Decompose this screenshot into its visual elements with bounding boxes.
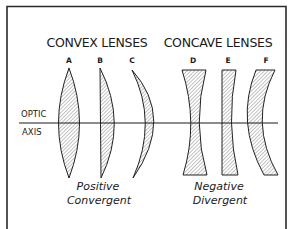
lens-c-convex-meniscus (132, 70, 154, 178)
convex-caption-positive: Positive (77, 180, 120, 193)
lens-label-a: A (66, 56, 72, 65)
lens-label-f: F (263, 56, 268, 65)
concave-lenses-heading: CONCAVE LENSES (164, 35, 273, 50)
concave-caption-divergent: Divergent (193, 194, 248, 207)
lens-label-e: E (225, 56, 230, 65)
lens-label-d: D (190, 56, 196, 65)
convex-caption-convergent: Convergent (67, 194, 132, 207)
convex-lenses-heading: CONVEX LENSES (47, 35, 148, 50)
lens-label-b: B (97, 56, 103, 65)
optic-axis-label-axis: AXIS (22, 127, 42, 137)
optic-axis-label-optic: OPTIC (21, 109, 47, 119)
concave-caption-negative: Negative (194, 180, 244, 193)
lens-diagram: CONVEX LENSES CONCAVE LENSES A B C D E F… (0, 0, 293, 229)
lens-label-c: C (129, 56, 135, 65)
